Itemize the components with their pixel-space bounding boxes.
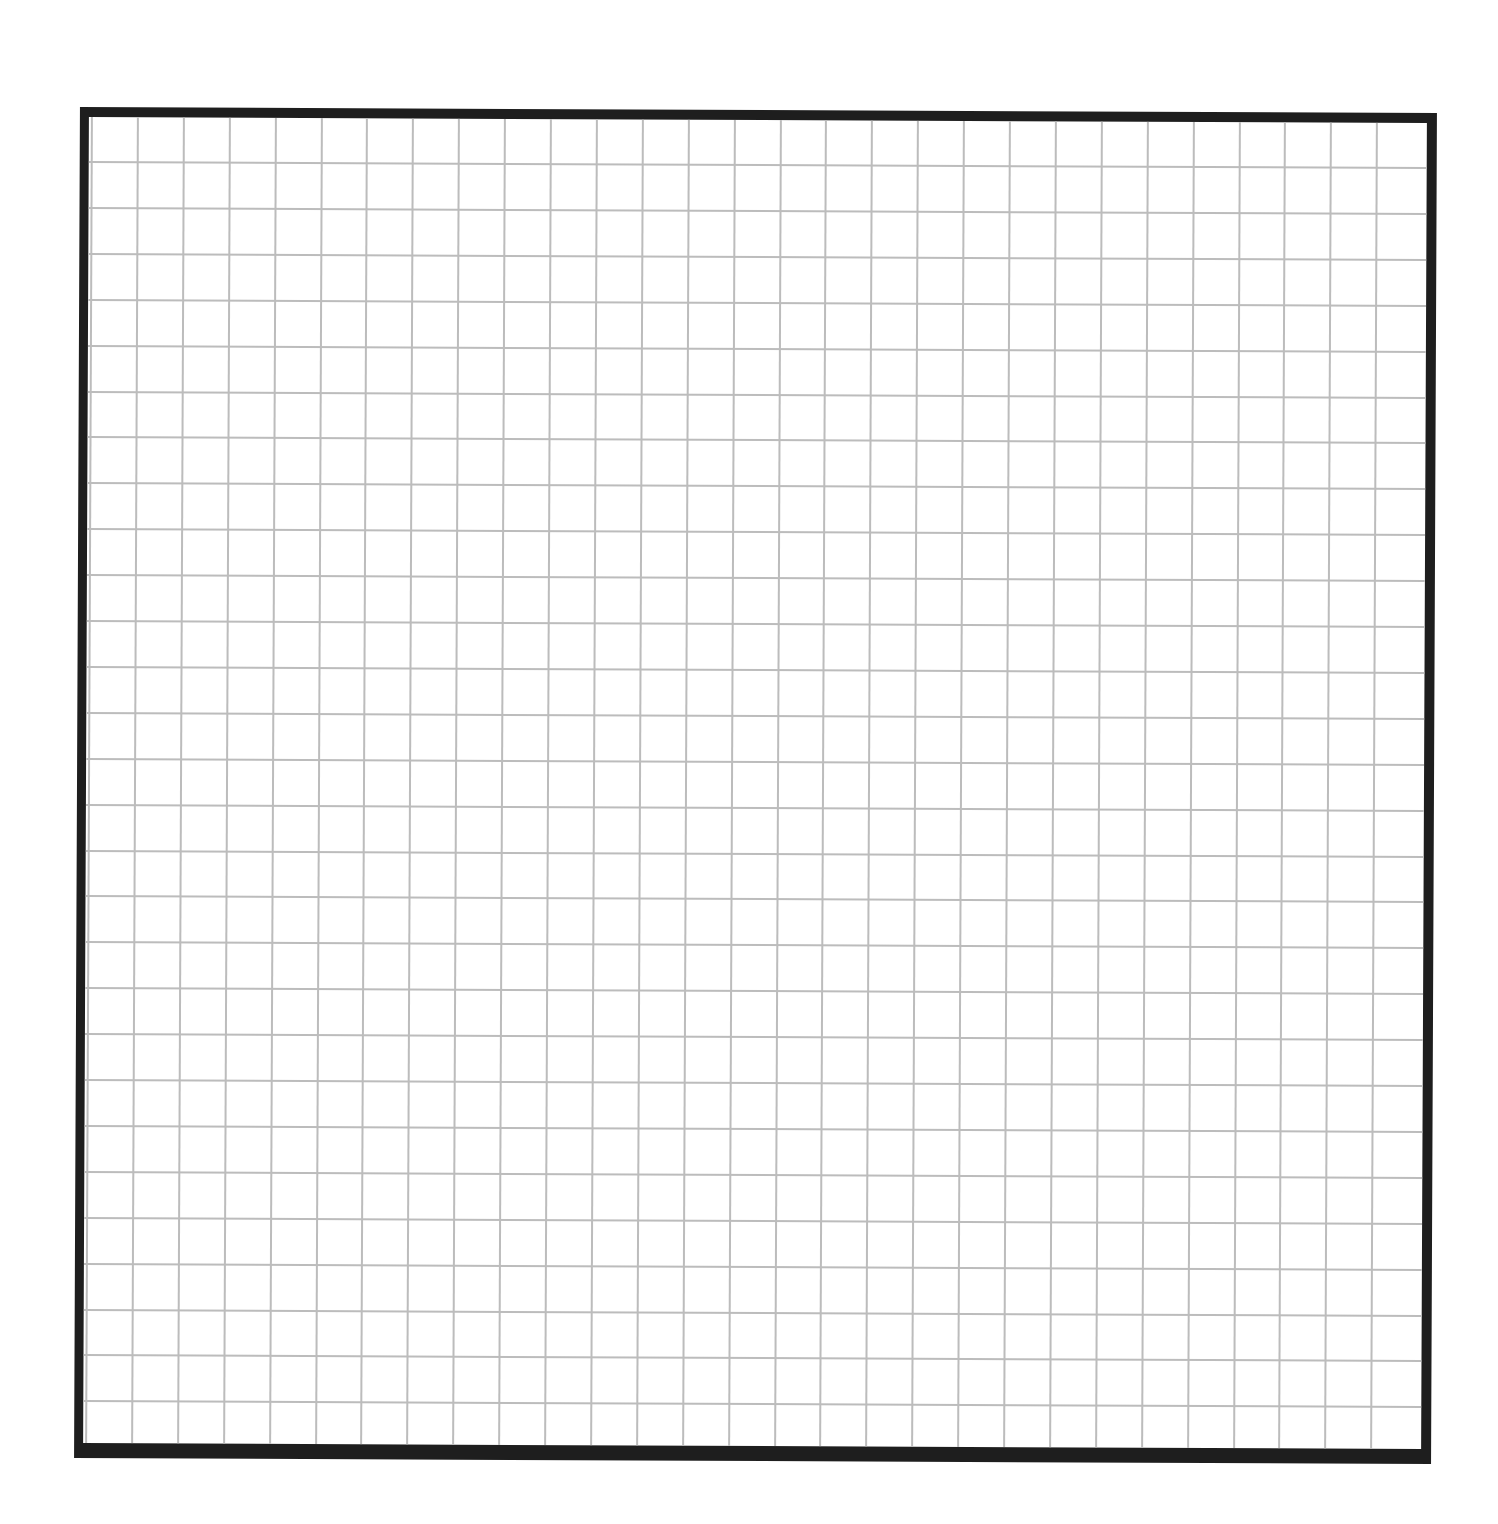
grid-line-vertical — [865, 120, 873, 1446]
grid-line-horizontal — [88, 345, 1426, 353]
grid-line-vertical — [177, 117, 185, 1443]
grid-lines — [83, 117, 1427, 1449]
grid-line-horizontal — [87, 574, 1425, 582]
grid-line-vertical — [636, 119, 644, 1445]
grid-line-horizontal — [84, 1309, 1422, 1317]
grid-line-horizontal — [84, 1354, 1422, 1362]
grid-line-horizontal — [86, 804, 1424, 812]
grid-line-vertical — [452, 119, 460, 1445]
grid-line-horizontal — [89, 161, 1427, 169]
grid-line-horizontal — [83, 1400, 1421, 1408]
grid-line-vertical — [1049, 121, 1057, 1447]
grid-line-vertical — [728, 120, 736, 1446]
grid-line-vertical — [1370, 123, 1378, 1449]
grid-line-horizontal — [84, 1171, 1422, 1179]
grid-line-vertical — [315, 118, 323, 1444]
grid-line-vertical — [1279, 122, 1287, 1448]
grid-line-vertical — [1003, 121, 1011, 1447]
graph-paper-frame — [74, 107, 1437, 1464]
grid-line-horizontal — [86, 712, 1424, 720]
grid-line-vertical — [223, 118, 231, 1444]
grid-line-horizontal — [86, 758, 1424, 766]
grid-line-horizontal — [87, 620, 1425, 628]
grid-line-vertical — [1187, 122, 1195, 1448]
grid-line-horizontal — [86, 850, 1424, 858]
grid-line-horizontal — [89, 207, 1427, 215]
grid-line-horizontal — [84, 1263, 1422, 1271]
grid-line-horizontal — [88, 253, 1426, 261]
grid-line-vertical — [820, 120, 828, 1446]
grid-line-vertical — [1233, 122, 1241, 1448]
scanned-page — [0, 0, 1498, 1524]
grid-line-vertical — [682, 120, 690, 1446]
grid-line-vertical — [1095, 121, 1103, 1447]
grid-line-horizontal — [85, 1033, 1423, 1041]
grid-line-horizontal — [87, 528, 1425, 536]
grid-line-horizontal — [87, 482, 1425, 490]
grid-line-horizontal — [85, 1079, 1423, 1087]
grid-line-horizontal — [88, 391, 1426, 399]
grid-line-vertical — [85, 117, 93, 1443]
grid-line-vertical — [544, 119, 552, 1445]
grid-line-vertical — [269, 118, 277, 1444]
grid-line-horizontal — [88, 299, 1426, 307]
grid-line-vertical — [406, 118, 414, 1444]
grid-line-horizontal — [85, 1125, 1423, 1133]
grid-line-horizontal — [84, 1217, 1422, 1225]
grid-line-vertical — [1141, 122, 1149, 1448]
grid-line-vertical — [774, 120, 782, 1446]
grid-line-horizontal — [86, 895, 1424, 903]
grid-line-horizontal — [88, 436, 1426, 444]
grid-line-horizontal — [87, 666, 1425, 674]
grid-line-vertical — [361, 118, 369, 1444]
grid-line-vertical — [1324, 123, 1332, 1449]
grid-line-vertical — [498, 119, 506, 1445]
grid-line-horizontal — [85, 987, 1423, 995]
grid-line-vertical — [911, 121, 919, 1447]
grid-line-vertical — [957, 121, 965, 1447]
grid-line-horizontal — [85, 941, 1423, 949]
grid-line-vertical — [590, 119, 598, 1445]
grid-line-vertical — [131, 117, 139, 1443]
